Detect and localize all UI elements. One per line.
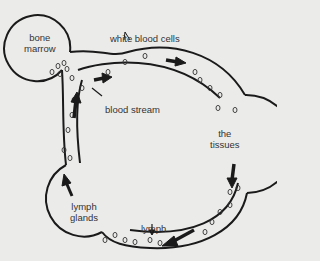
bone-marrow-line1: bone <box>24 32 56 43</box>
lymph-label: lymph <box>141 223 166 234</box>
tissues-line2: tissues <box>210 139 240 150</box>
bone-marrow-label: bone marrow <box>24 32 56 54</box>
bone-marrow-line2: marrow <box>24 43 56 54</box>
white-blood-cells-label: white blood cells <box>110 33 180 44</box>
tissues-label: the tissues <box>210 128 240 150</box>
tissues-circle <box>245 95 277 193</box>
blood-stream-label: blood stream <box>105 104 160 115</box>
tissues-line1: the <box>210 128 240 139</box>
lymph-glands-line2: glands <box>70 212 98 223</box>
pointer-blood-stream <box>92 88 102 96</box>
vessel-outer <box>70 48 245 95</box>
lymph-glands-line1: lymph <box>70 201 98 212</box>
lymph-glands-label: lymph glands <box>70 201 98 223</box>
